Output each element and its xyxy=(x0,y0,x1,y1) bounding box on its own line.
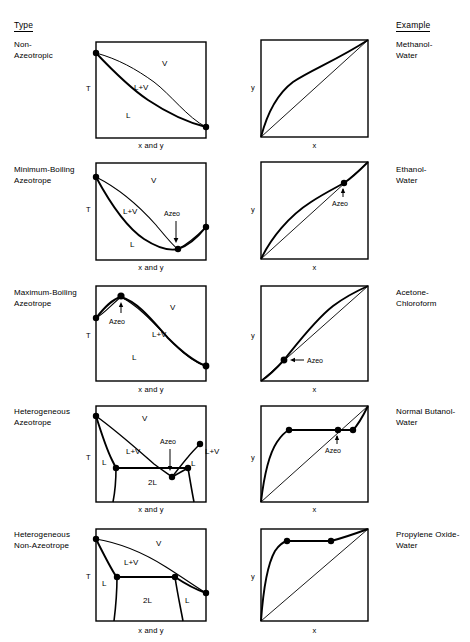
axis-caption-xy-row5: x and y xyxy=(96,626,206,635)
endpoint-marker xyxy=(203,124,209,130)
diagonal-line xyxy=(261,529,368,621)
row-label-line2: Azeotrope xyxy=(14,299,100,310)
row-label-line1: Heterogeneous xyxy=(14,530,100,541)
example-label-methanol-water: Methanol- Water xyxy=(396,40,470,61)
example-label-acetone-chloroform: Acetone- Chloroform xyxy=(396,288,470,309)
region-label-vapor: V xyxy=(170,303,176,312)
equilibrium-curve-left xyxy=(261,430,289,502)
row-label-minimum-boiling: Minimum-Boiling Azeotrope xyxy=(14,165,100,186)
region-label-two-liquid: 2L xyxy=(148,478,157,487)
axis-label-T-row2: T xyxy=(86,205,91,214)
example-label-propylene-oxide-water: Propylene Oxide- Water xyxy=(396,530,470,551)
plot-txy-row4: V L+V L 2L L L+V Azeo xyxy=(96,406,206,502)
azeotrope-label: Azeo xyxy=(325,447,341,454)
example-label-line1: Propylene Oxide- xyxy=(396,530,470,541)
row-label-line1: Heterogeneous xyxy=(14,407,100,418)
example-label-line2: Water xyxy=(396,541,470,552)
example-label-line1: Normal Butanol- xyxy=(396,407,470,418)
axis-caption-x-row2: x xyxy=(261,263,368,272)
example-label-line2: Chloroform xyxy=(396,299,470,310)
endpoint-marker xyxy=(93,413,99,419)
axis-label-y-row5: y xyxy=(251,572,255,581)
axis-label-T-row3: T xyxy=(86,331,91,340)
bubble-curve-left xyxy=(96,539,117,577)
azeotrope-arrow-head xyxy=(290,358,295,362)
region-label-two-phase: L+V xyxy=(152,330,167,339)
solubility-curve-left xyxy=(113,468,116,502)
endpoint-marker xyxy=(203,363,210,370)
phase-marker xyxy=(328,538,334,544)
azeotrope-label: Azeo xyxy=(160,438,176,445)
axis-label-T-row1: T xyxy=(86,84,91,93)
example-label-ethanol-water: Ethanol- Water xyxy=(396,165,470,186)
example-label-line2: Water xyxy=(396,176,470,187)
azeotrope-marker xyxy=(341,180,347,186)
bubble-curve xyxy=(96,53,206,127)
plot-xy-row1 xyxy=(261,40,368,137)
equilibrium-curve-left xyxy=(261,541,287,621)
region-label-vapor: V xyxy=(151,176,157,185)
region-label-liquid-left: L xyxy=(102,579,107,588)
row-label-line1: Non- xyxy=(14,40,100,51)
azeotrope-label: Azeo xyxy=(332,200,348,207)
row-label-line1: Minimum-Boiling xyxy=(14,165,100,176)
region-label-liquid-left: L xyxy=(102,458,107,467)
example-label-line1: Acetone- xyxy=(396,288,470,299)
axis-caption-xy-row3: x and y xyxy=(96,385,206,394)
region-label-two-phase: L+V xyxy=(124,558,139,567)
row-label-heterogeneous-azeotrope: Heterogeneous Azeotrope xyxy=(14,407,100,428)
plot-xy-row5 xyxy=(261,529,368,621)
column-header-example: Example xyxy=(396,20,430,32)
column-header-type: Type xyxy=(14,20,33,32)
region-label-liquid: L xyxy=(126,111,131,120)
row-label-maximum-boiling: Maximum-Boiling Azeotrope xyxy=(14,288,100,309)
azeotrope-label: Azeo xyxy=(164,210,180,217)
solubility-curve-right xyxy=(175,577,183,621)
axis-caption-x-row3: x xyxy=(261,385,368,394)
azeotrope-label: Azeo xyxy=(307,357,323,364)
row-label-heterogeneous-non-azeotrope: Heterogeneous Non-Azeotrope xyxy=(14,530,100,551)
axis-caption-xy-row4: x and y xyxy=(96,505,206,514)
plot-txy-row3: V L+V L Azeo xyxy=(96,286,206,381)
plot-txy-row5: V L+V L 2L L xyxy=(96,529,206,621)
endpoint-marker xyxy=(203,590,209,596)
row-label-line2: Azeotropic xyxy=(14,51,100,62)
example-label-line2: Water xyxy=(396,51,470,62)
phase-marker xyxy=(113,465,119,471)
endpoint-marker xyxy=(93,174,99,180)
azeotrope-marker xyxy=(335,427,341,433)
region-label-vapor: V xyxy=(162,59,168,68)
row-label-line2: Azeotrope xyxy=(14,176,100,187)
phase-marker xyxy=(284,538,290,544)
endpoint-marker xyxy=(93,536,99,542)
phase-marker xyxy=(350,427,356,433)
axis-label-y-row3: y xyxy=(251,331,255,340)
azeotrope-label: Azeo xyxy=(109,318,125,325)
region-label-two-phase: L+V xyxy=(126,447,141,456)
plot-xy-row2: Azeo xyxy=(261,162,368,259)
region-label-two-liquid: 2L xyxy=(143,596,152,605)
diagonal-line xyxy=(261,40,368,137)
axis-caption-x-row1: x xyxy=(261,141,368,150)
endpoint-marker xyxy=(203,224,209,230)
region-label-vapor: V xyxy=(156,539,162,548)
endpoint-marker xyxy=(93,50,99,56)
equilibrium-curve-right xyxy=(331,529,368,541)
axis-label-y-row4: y xyxy=(251,453,255,462)
figure-root: Type Example Non- Azeotropic Methanol- W… xyxy=(0,0,470,642)
example-label-line2: Water xyxy=(396,418,470,429)
dew-curve xyxy=(96,53,206,127)
axis-label-T-row5: T xyxy=(86,572,91,581)
axis-caption-x-row5: x xyxy=(261,626,368,635)
bubble-curve xyxy=(96,177,206,250)
azeotrope-marker xyxy=(281,357,288,364)
plot-xy-row4: Azeo xyxy=(261,406,368,502)
azeotrope-arrow-head xyxy=(341,188,345,193)
plot-txy-row2: V L+V L Azeo xyxy=(96,163,206,260)
region-label-vapor: V xyxy=(142,414,148,423)
plot-frame xyxy=(96,406,206,502)
row-label-line2: Azeotrope xyxy=(14,418,100,429)
endpoint-marker xyxy=(197,441,203,447)
azeotrope-arrow-head xyxy=(174,238,179,243)
region-label-two-phase: L+V xyxy=(134,83,149,92)
